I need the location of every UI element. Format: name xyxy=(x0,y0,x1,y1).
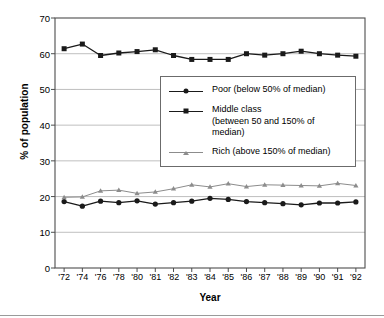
x-tick-label: '78 xyxy=(113,272,125,282)
chart-figure: 010203040506070 '72'74'76'78'80'81'82'83… xyxy=(0,0,384,318)
data-point xyxy=(208,57,213,62)
x-tick-label: '76 xyxy=(95,272,107,282)
data-point xyxy=(353,54,358,59)
y-tick-label: 10 xyxy=(20,227,50,238)
data-point xyxy=(317,51,322,56)
x-tick-label: '74 xyxy=(76,272,88,282)
x-tick-label: '80 xyxy=(131,272,143,282)
x-tick-label: '86 xyxy=(241,272,253,282)
legend-label-poor: Poor (below 50% of median) xyxy=(212,84,326,96)
legend-label-middle-class-line2: (between 50 and 150% of median) xyxy=(212,116,349,139)
legend-item-rich: Rich (above 150% of median) xyxy=(167,146,349,159)
data-point xyxy=(299,49,304,54)
x-tick-label: '84 xyxy=(204,272,216,282)
y-axis-title: % of population xyxy=(19,52,30,192)
data-point xyxy=(98,53,103,58)
data-point xyxy=(171,53,176,58)
data-point xyxy=(226,181,231,186)
data-point xyxy=(353,199,358,204)
x-tick-label: '72 xyxy=(58,272,70,282)
x-tick-label: '83 xyxy=(186,272,198,282)
data-point xyxy=(262,53,267,58)
data-point xyxy=(244,199,249,204)
data-point xyxy=(244,51,249,56)
x-tick-label: '91 xyxy=(332,272,344,282)
data-point xyxy=(98,199,103,204)
x-tick-label: '92 xyxy=(350,272,362,282)
x-tick-label: '81 xyxy=(149,272,161,282)
bottom-divider xyxy=(0,315,384,316)
chart-legend: Poor (below 50% of median) Middle class … xyxy=(160,76,356,167)
data-point xyxy=(280,201,285,206)
data-point xyxy=(335,181,340,186)
data-point xyxy=(317,200,322,205)
data-point xyxy=(189,182,194,187)
x-tick-label: '85 xyxy=(222,272,234,282)
data-point xyxy=(262,200,267,205)
square-marker-icon xyxy=(167,105,205,117)
data-point xyxy=(62,199,67,204)
data-point xyxy=(280,51,285,56)
legend-item-poor: Poor (below 50% of median) xyxy=(167,84,349,97)
data-point xyxy=(116,51,121,56)
data-point xyxy=(335,53,340,58)
data-point xyxy=(135,49,140,54)
data-point xyxy=(171,200,176,205)
legend-label-rich: Rich (above 150% of median) xyxy=(212,146,331,158)
legend-label-middle-class: Middle class (between 50 and 150% of med… xyxy=(212,104,349,139)
data-point xyxy=(226,57,231,62)
x-tick-label: '90 xyxy=(314,272,326,282)
data-point xyxy=(299,202,304,207)
series-circle xyxy=(62,196,359,209)
x-tick-label: '82 xyxy=(168,272,180,282)
y-tick-label: 70 xyxy=(20,13,50,24)
x-axis-title: Year xyxy=(55,292,365,303)
legend-item-middle-class: Middle class (between 50 and 150% of med… xyxy=(167,104,349,139)
data-point xyxy=(153,201,158,206)
x-tick-label: '89 xyxy=(295,272,307,282)
data-point xyxy=(226,197,231,202)
x-tick-label: '88 xyxy=(277,272,289,282)
data-point xyxy=(335,200,340,205)
data-point xyxy=(153,47,158,52)
y-tick-label: 20 xyxy=(20,191,50,202)
legend-label-middle-class-line1: Middle class xyxy=(212,104,262,114)
circle-marker-icon xyxy=(167,85,205,97)
data-point xyxy=(134,198,139,203)
triangle-marker-icon xyxy=(167,147,205,159)
series-square xyxy=(62,42,359,62)
data-point xyxy=(80,42,85,47)
x-axis-tick-labels: '72'74'76'78'80'81'82'83'84'85'86'87'88'… xyxy=(0,272,384,288)
data-point xyxy=(116,200,121,205)
x-tick-label: '87 xyxy=(259,272,271,282)
data-point xyxy=(80,204,85,209)
data-point xyxy=(207,196,212,201)
data-point xyxy=(189,57,194,62)
data-point xyxy=(62,46,67,51)
data-point xyxy=(189,199,194,204)
